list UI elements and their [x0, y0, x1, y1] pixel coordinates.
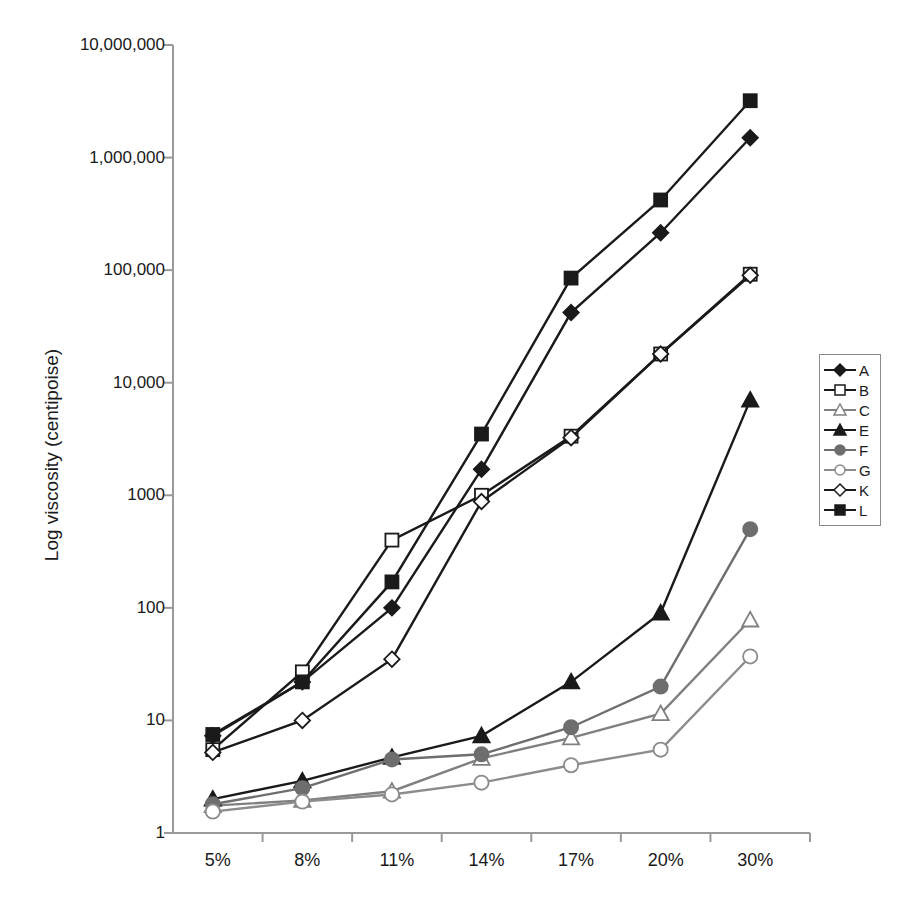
line-chart: 10,000,0001,000,000100,00010,00010001001… — [0, 0, 911, 902]
open-triangle-icon — [823, 402, 857, 418]
filled-triangle-icon — [823, 422, 857, 438]
data-point-marker — [475, 428, 488, 441]
x-tick-label: 14% — [452, 851, 522, 869]
y-axis-title: Log viscosity (centipoise) — [41, 305, 63, 605]
x-tick-label: 11% — [362, 851, 432, 869]
series-K — [205, 268, 758, 761]
legend-item-label: C — [859, 403, 870, 418]
data-point-marker — [385, 534, 398, 547]
legend-item-b[interactable]: B — [820, 380, 880, 400]
data-point-marker — [564, 720, 578, 734]
data-point-marker — [474, 747, 488, 761]
data-point-marker — [742, 392, 758, 407]
series-E — [205, 392, 759, 806]
axes — [164, 45, 810, 842]
data-point-marker — [295, 795, 309, 809]
legend-item-label: G — [859, 463, 871, 478]
y-tick-label-text: 1,000,000 — [89, 149, 165, 166]
series-F — [206, 522, 758, 811]
y-tick-label-text: 1 — [156, 824, 165, 841]
data-point-marker — [385, 575, 398, 588]
data-point-marker — [384, 651, 399, 666]
legend-marker — [835, 445, 845, 455]
data-point-marker — [564, 758, 578, 772]
x-tick-label: 30% — [720, 851, 790, 869]
data-point-marker — [743, 522, 757, 536]
legend-item-label: A — [859, 363, 869, 378]
data-point-marker — [295, 781, 309, 795]
open-diamond-icon — [823, 482, 857, 498]
data-point-marker — [744, 94, 757, 107]
legend-item-e[interactable]: E — [820, 420, 880, 440]
filled-diamond-icon — [823, 362, 857, 378]
legend-marker — [834, 484, 846, 496]
data-point-marker — [474, 462, 489, 477]
open-square-icon — [823, 382, 857, 398]
data-point-marker — [473, 728, 489, 743]
chart-canvas — [0, 0, 911, 902]
y-tick-label-text: 1000 — [127, 486, 165, 503]
legend-item-label: K — [859, 483, 869, 498]
y-tick-label-text: 100 — [137, 599, 165, 616]
filled-square-icon — [823, 502, 857, 518]
data-point-marker — [565, 272, 578, 285]
data-series — [205, 94, 759, 818]
data-point-marker — [385, 787, 399, 801]
legend-marker — [835, 385, 845, 395]
data-point-marker — [385, 752, 399, 766]
data-point-marker — [206, 728, 219, 741]
data-point-marker — [654, 193, 667, 206]
legend-item-c[interactable]: C — [820, 400, 880, 420]
legend-item-label: E — [859, 423, 869, 438]
y-tick-label-text: 10,000 — [113, 374, 165, 391]
data-point-marker — [742, 612, 758, 627]
filled-circle-icon — [823, 442, 857, 458]
legend-item-l[interactable]: L — [820, 500, 880, 520]
legend-item-g[interactable]: G — [820, 460, 880, 480]
open-circle-icon — [823, 462, 857, 478]
x-tick-label: 5% — [183, 851, 253, 869]
legend-marker — [834, 364, 846, 376]
legend-item-label: B — [859, 383, 869, 398]
legend-item-f[interactable]: F — [820, 440, 880, 460]
y-tick-label-text: 100,000 — [104, 261, 165, 278]
data-point-marker — [563, 674, 579, 689]
series-line-L — [213, 101, 750, 735]
legend-item-label: L — [859, 503, 867, 518]
y-tick-label-text: 10,000,000 — [80, 36, 165, 53]
data-point-marker — [206, 804, 220, 818]
x-tick-label: 8% — [272, 851, 342, 869]
legend-item-k[interactable]: K — [820, 480, 880, 500]
x-tick-label: 20% — [631, 851, 701, 869]
x-tick-label: 17% — [541, 851, 611, 869]
data-point-marker — [653, 605, 669, 620]
data-point-marker — [654, 679, 668, 693]
legend-item-a[interactable]: A — [820, 360, 880, 380]
data-point-marker — [295, 713, 310, 728]
data-point-marker — [474, 776, 488, 790]
data-point-marker — [743, 649, 757, 663]
legend-marker — [835, 505, 845, 515]
series-L — [206, 94, 756, 741]
data-point-marker — [654, 743, 668, 757]
legend-marker — [835, 465, 845, 475]
y-tick-label-text: 10 — [146, 711, 165, 728]
chart-legend: ABCEFGKL — [819, 354, 881, 526]
data-point-marker — [296, 675, 309, 688]
legend-item-label: F — [859, 443, 868, 458]
